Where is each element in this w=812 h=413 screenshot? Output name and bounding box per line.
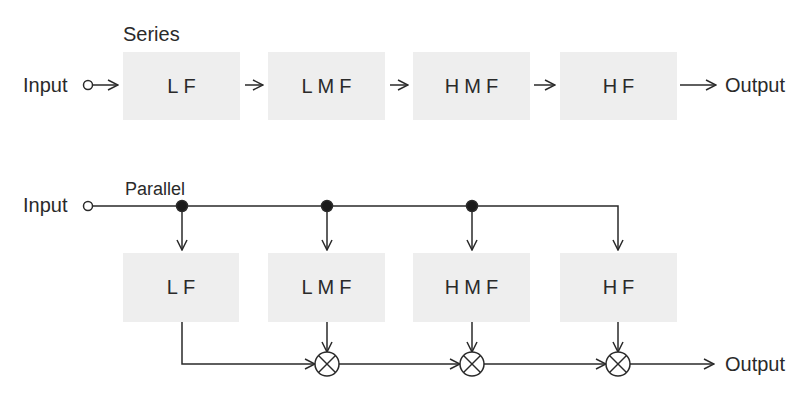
series-output-label: Output — [725, 73, 785, 97]
parallel-input-label: Input — [23, 193, 67, 217]
series-input-label: Input — [23, 73, 67, 97]
series-block-lmf: LMF — [268, 52, 385, 120]
block-label: LF — [167, 75, 200, 98]
series-input-terminal — [84, 81, 93, 90]
block-label: LMF — [302, 276, 357, 299]
block-label: HF — [603, 276, 640, 299]
series-block-hf: HF — [560, 52, 677, 120]
block-label: LMF — [302, 75, 357, 98]
junction-dot-lmf — [322, 201, 333, 212]
series-block-hmf: HMF — [413, 52, 530, 120]
block-label: HF — [603, 75, 640, 98]
junction-dot-lf — [177, 201, 188, 212]
block-label: HMF — [445, 276, 503, 299]
multiplier-icon-2 — [460, 352, 484, 376]
parallel-block-hmf: HMF — [413, 253, 530, 322]
multiplier-icon-1 — [315, 352, 339, 376]
parallel-title: Parallel — [125, 177, 185, 201]
parallel-input-terminal — [84, 202, 93, 211]
series-title: Series — [123, 22, 180, 46]
diagram-connectors — [0, 0, 812, 413]
parallel-output-label: Output — [725, 352, 785, 376]
parallel-block-lf: LF — [123, 253, 239, 322]
multiplier-icon-3 — [606, 352, 630, 376]
block-label: LF — [167, 276, 200, 299]
parallel-lf-out — [182, 322, 315, 364]
block-label: HMF — [445, 75, 503, 98]
parallel-bus — [93, 206, 618, 250]
parallel-block-lmf: LMF — [268, 253, 385, 322]
series-block-lf: LF — [123, 52, 240, 120]
parallel-block-hf: HF — [560, 253, 677, 322]
junction-dot-hmf — [467, 201, 478, 212]
